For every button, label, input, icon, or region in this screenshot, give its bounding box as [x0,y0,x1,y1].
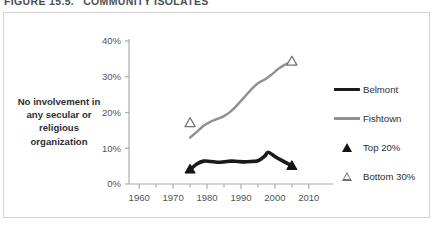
chart-legend: Belmont Fishtown Top 20% Bottom 30% [331,75,435,191]
figure-caption-title: COMMUNITY ISOLATES [83,0,209,7]
belmont-line-swatch-icon [331,88,363,92]
svg-text:30%: 30% [102,71,122,82]
svg-text:1990: 1990 [230,192,251,203]
triangle-open-marker [185,118,195,127]
fishtown-line-swatch-icon [331,117,363,120]
chart-frame: No involvement in any secular or religio… [3,12,430,218]
chart-markers [185,56,297,173]
svg-text:0%: 0% [107,178,121,189]
legend-item-belmont: Belmont [331,75,435,104]
triangle-filled-icon [331,143,363,152]
series-line-fishtown [190,62,292,138]
legend-label-bottom-30: Bottom 30% [363,171,415,182]
legend-label-belmont: Belmont [363,84,398,95]
svg-text:1980: 1980 [196,192,217,203]
svg-text:20%: 20% [102,107,122,118]
svg-text:2000: 2000 [264,192,285,203]
series-line-belmont [190,152,292,170]
triangle-open-icon [331,172,363,181]
legend-item-top-20: Top 20% [331,133,435,162]
figure-container: FIGURE 15.5.COMMUNITY ISOLATES No involv… [0,0,437,233]
chart-series [190,62,292,170]
figure-caption: FIGURE 15.5.COMMUNITY ISOLATES [4,0,209,9]
figure-caption-number: FIGURE 15.5. [4,0,74,7]
svg-text:2010: 2010 [298,192,319,203]
legend-item-fishtown: Fishtown [331,104,435,133]
triangle-open-marker [287,56,297,65]
svg-text:1970: 1970 [163,192,184,203]
legend-item-bottom-30: Bottom 30% [331,162,435,191]
svg-text:10%: 10% [102,143,122,154]
svg-text:40%: 40% [102,35,122,46]
legend-label-top-20: Top 20% [363,142,400,153]
legend-label-fishtown: Fishtown [363,113,401,124]
svg-text:1960: 1960 [129,192,150,203]
chart-tick-labels: 0%10%20%30%40%196019701980199020002010 [102,35,319,203]
